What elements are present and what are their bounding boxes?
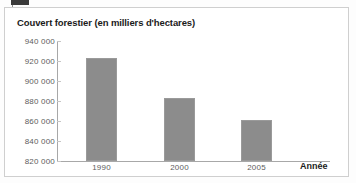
y-axis-tick-label: 840 000 bbox=[25, 137, 55, 146]
y-axis-tick-label: 920 000 bbox=[25, 57, 55, 66]
x-axis-line bbox=[57, 161, 330, 162]
y-tick-mark bbox=[57, 81, 61, 82]
y-axis-tick-label: 860 000 bbox=[25, 117, 55, 126]
x-axis-tick-label-1990: 1990 bbox=[76, 163, 127, 172]
y-tick-mark bbox=[57, 141, 61, 142]
figure-page: Couvert forestier (en milliers d'hectare… bbox=[0, 0, 356, 183]
y-axis-tick-label: 900 000 bbox=[25, 77, 55, 86]
x-axis-tick-label-2005: 2005 bbox=[231, 163, 282, 172]
bar-2005[interactable] bbox=[241, 120, 272, 161]
y-tick-mark bbox=[57, 101, 61, 102]
bar-chart-plot: 940 000 920 000 900 000 880 000 860 000 … bbox=[0, 0, 356, 183]
x-axis-tick-label-2000: 2000 bbox=[154, 163, 205, 172]
bar-1990[interactable] bbox=[86, 58, 117, 161]
bar-2000[interactable] bbox=[164, 98, 195, 161]
y-axis-tick-label: 880 000 bbox=[25, 97, 55, 106]
y-tick-mark bbox=[57, 41, 61, 42]
y-tick-mark bbox=[57, 61, 61, 62]
x-axis-title: Année bbox=[300, 161, 328, 171]
y-axis-tick-label: 820 000 bbox=[25, 157, 55, 166]
y-tick-mark bbox=[57, 121, 61, 122]
y-axis-tick-label: 940 000 bbox=[25, 37, 55, 46]
y-tick-mark bbox=[57, 161, 61, 162]
